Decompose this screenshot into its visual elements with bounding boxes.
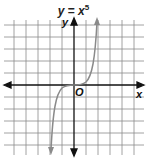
coordinate-plane — [0, 0, 147, 167]
y-axis-label: y — [62, 16, 68, 28]
origin-label: O — [75, 86, 84, 98]
x-axis-label: x — [136, 88, 142, 100]
